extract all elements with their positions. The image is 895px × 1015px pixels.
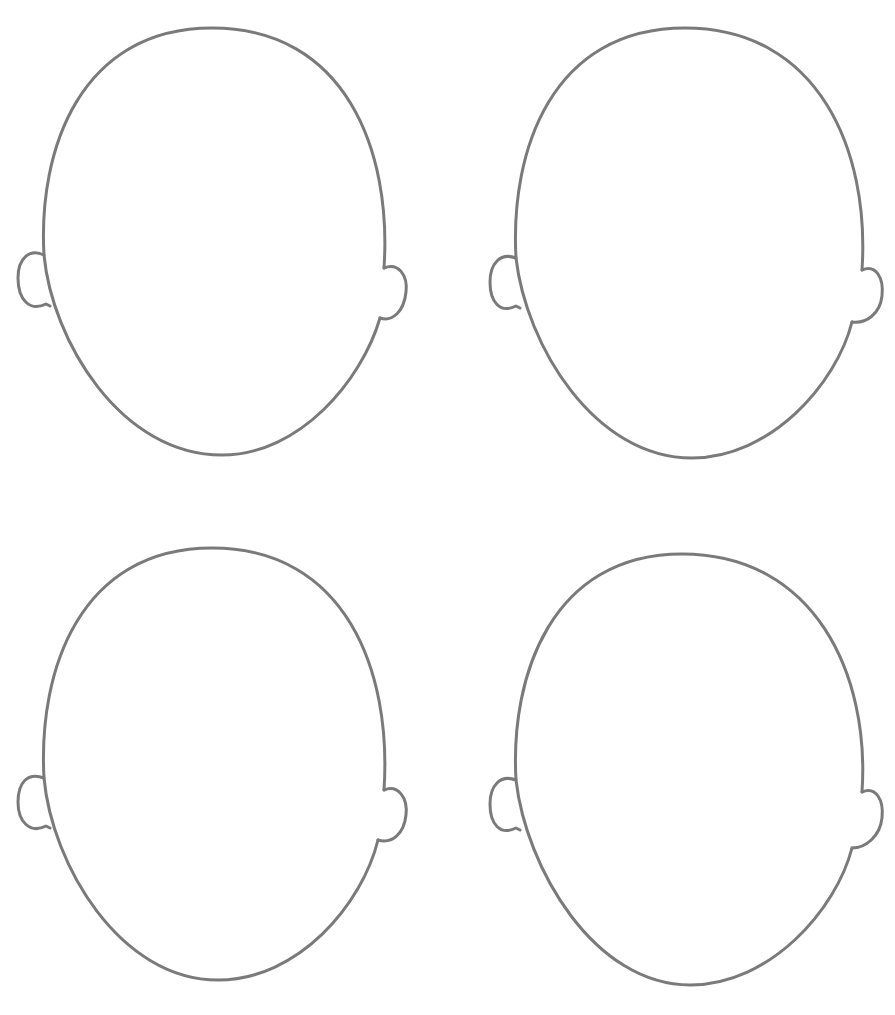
face-outline-bottom-right (490, 554, 882, 985)
faces-canvas (0, 0, 895, 1015)
head-outline (515, 28, 862, 458)
face-outline-top-right (490, 28, 882, 458)
head-outline (43, 548, 384, 980)
head-outline (515, 554, 862, 985)
right-ear (380, 267, 406, 319)
worksheet-page (0, 0, 895, 1015)
right-ear (852, 269, 882, 323)
right-ear (378, 789, 406, 841)
head-outline (43, 28, 384, 455)
face-outline-bottom-left (18, 548, 406, 980)
face-outline-top-left (18, 28, 406, 455)
right-ear (852, 791, 882, 848)
